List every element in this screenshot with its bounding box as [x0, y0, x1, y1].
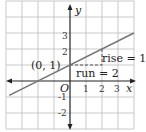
- x-axis-arrow-left: [6, 79, 12, 84]
- y-axis-label: y: [74, 4, 82, 17]
- x-axis-label: x: [126, 82, 133, 95]
- x-tick-3: 3: [114, 84, 120, 94]
- x-tick-1: 1: [83, 84, 89, 94]
- y-tick-2: 2: [62, 47, 68, 57]
- chart: y x O 1 2 3 3 2 -1 -2 (0, 1) rise = 1 ru…: [0, 0, 146, 132]
- y-axis-arrow-top: [68, 4, 73, 10]
- y-tick-neg2: -2: [58, 108, 67, 118]
- x-tick-2: 2: [99, 84, 105, 94]
- rise-label: rise = 1: [102, 52, 146, 65]
- y-tick-3: 3: [62, 31, 68, 41]
- run-label: run = 2: [76, 67, 119, 80]
- y-tick-neg1: -1: [58, 92, 67, 102]
- point-label: (0, 1): [31, 59, 61, 72]
